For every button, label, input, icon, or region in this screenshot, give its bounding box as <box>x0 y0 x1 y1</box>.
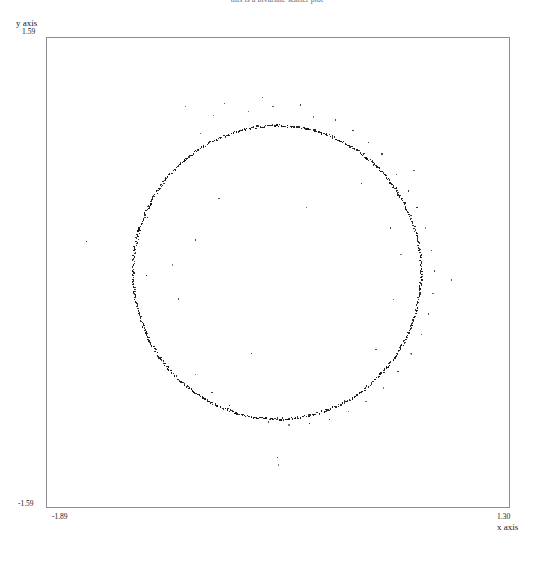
x-axis-max-tick: 1.30 <box>497 513 510 521</box>
y-axis-min-tick: -1.59 <box>18 500 34 508</box>
x-axis-label: x axis <box>497 523 518 532</box>
x-axis-min-tick: -1.89 <box>52 513 68 521</box>
figure-title-clip: this is a bivariate scatter plot <box>0 0 554 7</box>
scatter-plot-canvas <box>46 37 510 508</box>
y-axis-max-tick: 1.59 <box>22 28 35 36</box>
figure-title: this is a bivariate scatter plot <box>0 0 554 4</box>
